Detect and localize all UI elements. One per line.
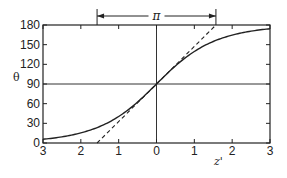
pi-span-right-arrow [209, 14, 216, 19]
chart: 03060901201501803210123 π θ z' [0, 0, 287, 178]
y-tick-label: 90 [27, 77, 41, 91]
annotations: π [97, 9, 216, 25]
x-tick-label: 1 [191, 144, 198, 158]
x-tick-label: 2 [229, 144, 236, 158]
y-axis-label: θ [13, 71, 20, 84]
x-tick-label: 3 [40, 144, 47, 158]
x-tick-label: 2 [77, 144, 84, 158]
y-tick-label: 120 [20, 57, 40, 71]
y-tick-label: 150 [20, 38, 40, 52]
pi-span-label: π [152, 9, 162, 23]
x-tick-label: 0 [153, 144, 160, 158]
x-tick-label: 1 [115, 144, 122, 158]
x-tick-label: 3 [267, 144, 274, 158]
y-tick-label: 180 [20, 18, 40, 32]
y-tick-label: 60 [27, 97, 41, 111]
x-axis-label: z' [213, 155, 223, 168]
y-tick-label: 30 [27, 116, 41, 130]
pi-span-left-arrow [97, 14, 104, 19]
